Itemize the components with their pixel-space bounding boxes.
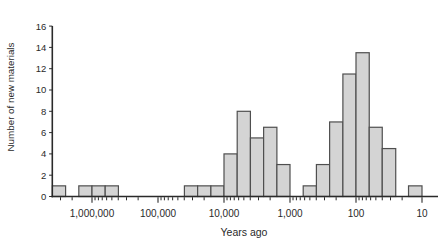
histogram-plot: 1,000,000100,00010,0001,0001001002468101… [0,0,446,250]
x-axis-title: Years ago [221,226,268,238]
histogram-bar [382,149,395,197]
plot-content: 1,000,000100,00010,0001,0001001002468101… [36,21,438,219]
histogram-bar [184,186,197,197]
y-tick-label: 10 [36,84,47,95]
histogram-bar [264,127,277,196]
y-tick-label: 16 [36,21,47,32]
y-tick-label: 6 [41,127,46,138]
histogram-bar [211,186,224,197]
histogram-bar [198,186,211,197]
histogram-bar [277,165,290,197]
x-tick-label: 1,000,000 [70,208,115,219]
histogram-bar [330,122,343,197]
y-tick-label: 14 [36,42,47,53]
x-tick-label: 10 [416,208,428,219]
histogram-bar [409,186,422,197]
x-tick-label: 10,000 [209,208,240,219]
x-tick-label: 1,000 [277,208,302,219]
histogram-bar [92,186,105,197]
y-tick-label: 12 [36,63,47,74]
histogram-bar [52,186,65,197]
histogram-bar [303,186,316,197]
histogram-bar [105,186,118,197]
histogram-bar [316,165,329,197]
y-tick-label: 0 [41,191,46,202]
y-tick-label: 2 [41,170,46,181]
y-axis-title: Number of new materials [5,42,16,151]
histogram-bar [369,127,382,196]
y-tick-label: 4 [41,148,46,159]
x-tick-label: 100 [348,208,365,219]
histogram-bar [250,138,263,197]
histogram-bar [224,154,237,197]
histogram-bar [237,111,250,196]
materials-histogram-chart: 1,000,000100,00010,0001,0001001002468101… [0,0,446,250]
histogram-bar [343,74,356,196]
histogram-bar [356,53,369,197]
histogram-bar [79,186,92,197]
y-tick-label: 8 [41,106,46,117]
x-tick-label: 100,000 [140,208,177,219]
